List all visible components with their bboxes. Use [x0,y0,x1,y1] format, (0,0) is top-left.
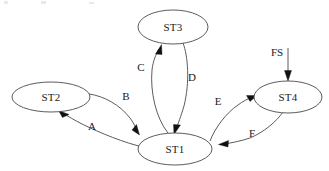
edge-f[interactable]: F [219,112,284,147]
node-st4[interactable]: ST4 [254,81,322,113]
edge-c-label: C [137,61,144,73]
edge-fs-arrowhead [285,71,292,82]
edge-fs-label: FS [271,46,283,58]
node-st2[interactable]: ST2 [12,82,90,112]
edge-e-label: E [215,95,222,107]
state-diagram: A B C D E F [0,0,329,171]
node-st1[interactable]: ST1 [138,133,212,165]
edge-f-label: F [249,127,255,139]
node-st3-label: ST3 [163,21,182,33]
node-st2-label: ST2 [41,91,60,103]
edge-a-label: A [88,120,96,132]
edge-d-path [176,43,188,129]
edge-c-path [152,49,168,133]
node-st1-label: ST1 [165,143,184,155]
edge-a-path [62,113,143,147]
edge-a[interactable]: A [59,111,144,148]
node-st3[interactable]: ST3 [138,10,208,44]
edge-c-arrowhead [156,45,163,55]
edge-b-label: B [122,90,129,102]
diagram-canvas: A B C D E F [0,0,329,171]
node-st4-label: ST4 [278,91,297,103]
edge-d[interactable]: D [174,43,197,135]
edge-f-arrowhead [219,141,229,148]
edge-b-arrowhead [132,125,140,136]
edge-b-path [89,94,137,130]
edge-b[interactable]: B [89,90,140,135]
edge-d-label: D [188,71,196,83]
edge-c[interactable]: C [137,45,168,134]
edge-fs[interactable]: FS [271,46,292,81]
